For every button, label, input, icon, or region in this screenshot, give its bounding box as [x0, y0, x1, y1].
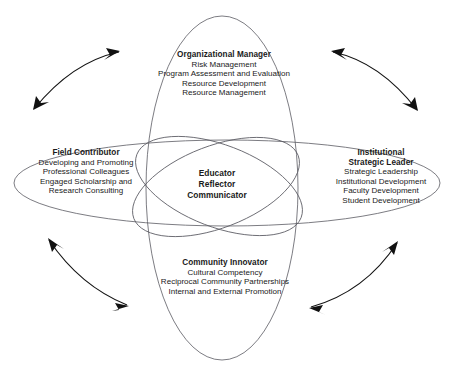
domain-left-item-2: Engaged Scholarship and — [10, 177, 162, 186]
domain-right-item-1: Institutional Development — [314, 177, 448, 186]
arrow-head-top-right-b — [402, 97, 418, 111]
domain-left-item-1: Professional Colleagues — [10, 167, 162, 176]
domain-top-title: Organizational Manager — [100, 50, 348, 60]
domain-left-item-0: Developing and Promoting — [10, 158, 162, 167]
domain-bottom-item-1: Reciprocal Community Partnerships — [122, 277, 328, 286]
domain-bottom-item-0: Cultural Competency — [122, 268, 328, 277]
arrow-bottom-left — [48, 238, 129, 311]
domain-right-title-line1: Institutional — [314, 148, 448, 158]
domain-top-item-1: Program Assessment and Evaluation — [100, 69, 348, 78]
domain-label-top: Organizational Manager Risk Management P… — [100, 50, 348, 97]
domain-label-bottom: Community Innovator Cultural Competency … — [122, 258, 328, 296]
domain-label-left: Field Contributor Developing and Promoti… — [10, 148, 162, 195]
domain-left-item-3: Research Consulting — [10, 186, 162, 195]
center-core-label: Educator Reflector Communicator — [169, 168, 265, 201]
domain-right-item-3: Student Development — [314, 196, 448, 205]
domain-right-item-0: Strategic Leadership — [314, 167, 448, 176]
domain-label-right: Institutional Strategic Leader Strategic… — [314, 148, 448, 205]
domain-bottom-title: Community Innovator — [122, 258, 328, 268]
center-role-educator: Educator — [169, 168, 265, 179]
domain-left-title: Field Contributor — [10, 148, 162, 158]
domain-right-title-line2: Strategic Leader — [314, 158, 448, 168]
venn-diagram: Organizational Manager Risk Management P… — [0, 0, 451, 372]
center-role-communicator: Communicator — [169, 190, 265, 201]
arrow-head-top-left-b — [33, 96, 49, 110]
center-role-reflector: Reflector — [169, 179, 265, 190]
domain-top-item-2: Resource Development — [100, 79, 348, 88]
domain-right-item-2: Faculty Development — [314, 186, 448, 195]
domain-top-item-3: Resource Management — [100, 88, 348, 97]
domain-top-item-0: Risk Management — [100, 60, 348, 69]
domain-bottom-item-2: Internal and External Promotion — [122, 287, 328, 296]
